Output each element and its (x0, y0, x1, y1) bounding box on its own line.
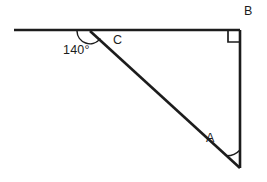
vertex-label-c: C (113, 34, 122, 47)
geometry-canvas (0, 0, 267, 182)
exterior-angle-label: 140° (63, 44, 90, 57)
vertex-label-a: A (206, 132, 214, 145)
angle-arc-a-icon (227, 150, 240, 156)
hypotenuse-ca-line (90, 31, 240, 168)
vertex-label-b: B (244, 5, 252, 18)
right-angle-square-icon (228, 31, 239, 42)
geometry-figure: B C A 140° (0, 0, 267, 182)
